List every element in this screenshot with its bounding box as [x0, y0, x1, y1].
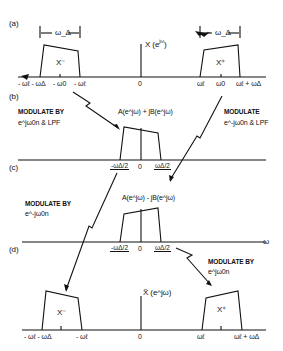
diagram-lines — [0, 0, 283, 351]
lobe-label-x-minus-a: X⁻ — [56, 59, 65, 67]
note-d-right-2: e^jω0n — [208, 268, 229, 276]
arrow-xplus-to-c — [170, 96, 222, 180]
note-d-right-1: MODULATE BY — [208, 258, 254, 266]
tick-bottom-pos-2: ωℓ + ωΔ — [234, 333, 259, 341]
tick-c-pos: ωΔ/2 — [154, 162, 171, 170]
note-c-left-1: MODULATE BY — [25, 200, 71, 208]
note-c-left-2: e^-jω0n — [25, 210, 49, 218]
note-b-left-2: e^jω0n & LPF — [18, 119, 60, 127]
tick-a-zero: 0 — [138, 80, 142, 88]
note-b-right-1: MODULATE — [224, 108, 260, 116]
arrow-xminus-to-b — [73, 92, 118, 128]
tick-bottom-zero: 0 — [138, 333, 142, 341]
tick-bottom-pos-1: ωℓ — [197, 333, 205, 341]
arrow-c-to-d-left — [66, 173, 117, 290]
lobe-label-x-plus-d: X⁺ — [217, 306, 226, 314]
tick-a-neg-2: - ω0 — [53, 80, 66, 88]
tick-c-neg: -ωΔ/2 — [110, 162, 129, 170]
tick-a-pos-3: ωℓ + ωΔ — [236, 80, 261, 88]
tick-d-pos: ωΔ/2 — [154, 244, 171, 252]
function-label-a: X (ejω) — [145, 37, 167, 49]
tick-bottom-neg-2: - ωℓ — [76, 333, 88, 341]
tick-bottom-neg-1: - ωℓ - ωΔ — [24, 333, 51, 341]
tick-a-neg-1: - ωℓ - ωΔ — [18, 80, 45, 88]
lobe-label-x-minus-d: X⁻ — [57, 309, 66, 317]
note-b-left-1: MODULATE BY — [18, 108, 64, 116]
lobe-label-x-plus-a: X⁺ — [216, 59, 225, 67]
tick-a-pos-2: ω0 — [216, 80, 225, 88]
width-label-left: ω_Δ — [55, 29, 71, 37]
function-label-c: A(e^jω) - jB(e^jω) — [122, 194, 175, 202]
panel-tag-a: (a) — [9, 20, 18, 28]
tick-d-neg: -ωΔ/2 — [110, 244, 129, 252]
tick-a-pos-1: ωℓ — [197, 80, 205, 88]
function-label-b: A(e^jω) + jB(e^jω) — [118, 108, 173, 116]
panel-tag-d: (d) — [9, 246, 18, 254]
arrow-d-to-bottom-right — [176, 248, 210, 284]
tick-a-neg-3: - ωℓ — [74, 80, 86, 88]
note-b-right-2: e^-jω0n & LPF — [224, 119, 268, 127]
tick-c-zero: 0 — [138, 163, 142, 171]
tick-d-zero: 0 — [138, 245, 142, 253]
function-label-d: X̃ (e^jω) — [143, 289, 171, 297]
panel-tag-c: (c) — [9, 164, 18, 172]
width-label-right: ω_Δ — [215, 29, 231, 37]
panel-tag-b: (b) — [9, 93, 18, 101]
axis-label-omega: ω — [263, 238, 269, 246]
